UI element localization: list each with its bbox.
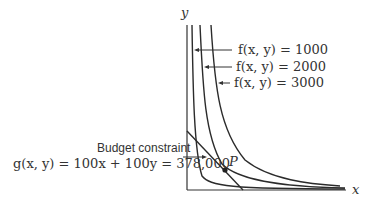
constraint-title: Budget constraint [97,141,191,155]
arrow-1000-head [194,48,199,52]
constraint-equation: g(x, y) = 100x + 100y = 378,000 [13,156,230,171]
y-axis-label: y [180,5,189,20]
level-label-2000: f(x, y) = 2000 [236,59,326,74]
level-label-1000: f(x, y) = 1000 [238,42,328,57]
arrow-3000-head [218,81,223,85]
level-label-3000: f(x, y) = 3000 [234,75,324,90]
arrow-2000-head [204,65,209,69]
lagrange-diagram: y x P f(x, y) = 1000 f(x, y) = 2000 f(x,… [0,0,371,206]
x-axis-label: x [352,182,360,197]
